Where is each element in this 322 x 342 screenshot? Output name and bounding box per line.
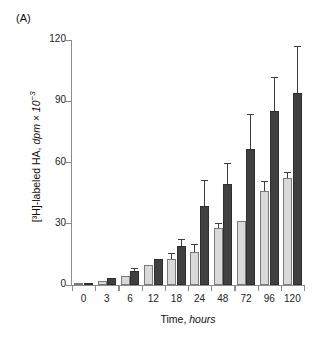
- bar-dark-gray-series-24h: [200, 206, 209, 285]
- bar-dark-gray-series-48h: [223, 184, 232, 285]
- error-bar-line-dark-gray-series-72h: [250, 114, 251, 150]
- error-bar-cap-dark-gray-series-48h: [224, 163, 231, 164]
- y-tick-30: [64, 223, 71, 224]
- error-bar-cap-dark-gray-series-120h: [294, 46, 301, 47]
- bar-dark-gray-series-0h: [84, 283, 93, 285]
- bar-light-gray-series-72h: [237, 221, 246, 285]
- error-bar-cap-light-gray-series-120h: [284, 172, 291, 173]
- bar-dark-gray-series-120h: [293, 93, 302, 285]
- y-tick-90: [64, 101, 71, 102]
- error-bar-line-dark-gray-series-48h: [227, 163, 228, 184]
- error-bar-line-dark-gray-series-24h: [204, 180, 205, 207]
- y-tick-0: [64, 285, 71, 286]
- bar-light-gray-series-18h: [167, 259, 176, 285]
- y-tick-label-0: 0: [36, 278, 66, 289]
- x-tick-24: [188, 285, 189, 291]
- bar-light-gray-series-6h: [121, 276, 130, 285]
- plot-area: [72, 40, 304, 285]
- panel-label: (A): [16, 12, 31, 24]
- bar-light-gray-series-12h: [144, 265, 153, 285]
- bars-container: [72, 40, 304, 285]
- error-bar-cap-light-gray-series-18h: [168, 253, 175, 254]
- error-bar-cap-light-gray-series-24h: [191, 244, 198, 245]
- error-bar-cap-dark-gray-series-96h: [271, 77, 278, 78]
- bar-dark-gray-series-96h: [270, 111, 279, 285]
- y-tick-120: [64, 40, 71, 41]
- bar-light-gray-series-96h: [260, 191, 269, 285]
- x-tick-12: [142, 285, 143, 291]
- error-bar-line-light-gray-series-96h: [264, 181, 265, 191]
- x-tick-label-120: 120: [275, 293, 309, 304]
- bar-light-gray-series-3h: [98, 281, 107, 285]
- error-bar-cap-light-gray-series-96h: [261, 181, 268, 182]
- error-bar-cap-dark-gray-series-72h: [247, 114, 254, 115]
- bar-dark-gray-series-3h: [107, 278, 116, 285]
- error-bar-line-light-gray-series-24h: [194, 244, 195, 252]
- bar-light-gray-series-24h: [190, 252, 199, 285]
- x-tick-end: [304, 285, 305, 291]
- bar-light-gray-series-120h: [283, 178, 292, 285]
- x-axis-title: Time, hours: [71, 313, 305, 325]
- error-bar-line-dark-gray-series-18h: [181, 239, 182, 246]
- x-tick-96: [258, 285, 259, 291]
- bar-dark-gray-series-18h: [177, 246, 186, 285]
- x-tick-48: [211, 285, 212, 291]
- x-tick-18: [165, 285, 166, 291]
- x-tick-6: [118, 285, 119, 291]
- bar-light-gray-series-0h: [74, 283, 83, 285]
- figure-panel: (A) 0306090120 [³H]-labeled HA, dpm × 10…: [0, 0, 322, 342]
- error-bar-cap-dark-gray-series-6h: [131, 268, 138, 269]
- y-tick-60: [64, 162, 71, 163]
- x-tick-72: [234, 285, 235, 291]
- x-tick-120: [281, 285, 282, 291]
- error-bar-line-dark-gray-series-96h: [274, 77, 275, 112]
- error-bar-cap-dark-gray-series-18h: [178, 239, 185, 240]
- bar-dark-gray-series-6h: [130, 271, 139, 285]
- x-tick-0: [72, 285, 73, 291]
- bar-light-gray-series-48h: [214, 228, 223, 285]
- bar-dark-gray-series-12h: [154, 259, 163, 285]
- y-axis-title: [³H]-labeled HA, dpm × 10−3: [28, 42, 42, 272]
- bar-dark-gray-series-72h: [246, 149, 255, 285]
- x-tick-3: [95, 285, 96, 291]
- error-bar-cap-dark-gray-series-24h: [201, 180, 208, 181]
- error-bar-cap-light-gray-series-48h: [215, 223, 222, 224]
- error-bar-line-dark-gray-series-120h: [297, 46, 298, 93]
